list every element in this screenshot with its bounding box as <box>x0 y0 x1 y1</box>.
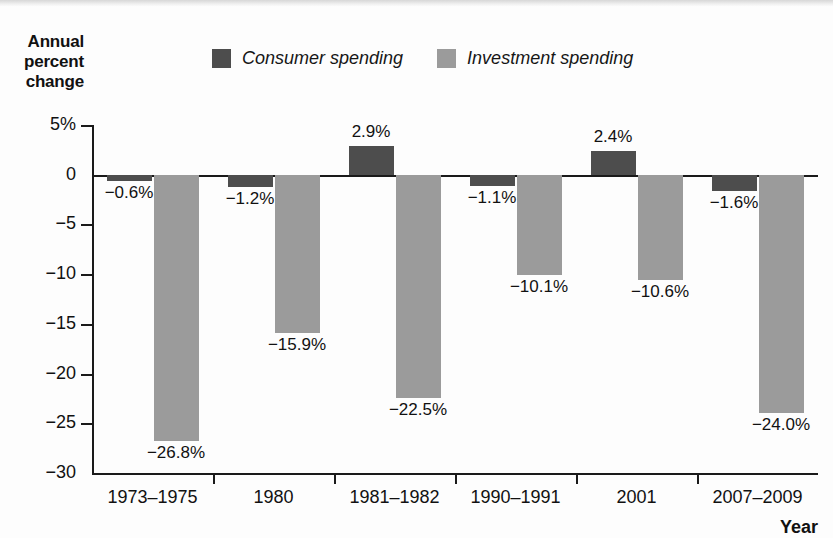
plot-area: 5%0−5−10−15−20−25−30 −0.6%−1.2%2.9%−1.1%… <box>92 125 818 475</box>
bar-consumer-4 <box>591 151 636 175</box>
x-category-label-4: 2001 <box>576 487 697 508</box>
bar-value-label-investment-2: −22.5% <box>379 400 457 420</box>
chart-figure: Annual percent change Consumer spending … <box>0 0 833 538</box>
y-tick-label: −20 <box>45 363 76 384</box>
bar-value-label-consumer-4: 2.4% <box>574 127 652 147</box>
bar-investment-2 <box>396 175 441 399</box>
bar-investment-0 <box>154 175 199 441</box>
legend-item-consumer-spending: Consumer spending <box>212 48 403 69</box>
bar-value-label-investment-3: −10.1% <box>500 277 578 297</box>
x-category-label-1: 1980 <box>213 487 334 508</box>
bar-value-label-investment-1: −15.9% <box>258 335 336 355</box>
y-axis-title: Annual percent change <box>0 32 84 92</box>
bar-value-label-investment-4: −10.6% <box>621 282 699 302</box>
x-tick-mark <box>334 473 336 484</box>
y-tick-label: −5 <box>55 213 76 234</box>
y-tick-label: 0 <box>66 164 76 185</box>
legend-label-consumer-spending: Consumer spending <box>242 48 403 69</box>
bar-value-label-consumer-2: 2.9% <box>332 122 410 142</box>
bar-value-label-investment-5: −24.0% <box>742 415 820 435</box>
bar-consumer-2 <box>349 146 394 175</box>
x-category-label-5: 2007–2009 <box>697 487 818 508</box>
bar-value-label-investment-0: −26.8% <box>137 443 215 463</box>
bar-consumer-1 <box>228 175 273 187</box>
bar-consumer-5 <box>712 175 757 191</box>
x-axis-title: Year <box>780 517 818 538</box>
y-tick-label: −25 <box>45 412 76 433</box>
bar-investment-3 <box>517 175 562 275</box>
y-tick-mark <box>81 374 94 376</box>
y-tick-mark <box>81 324 94 326</box>
bar-investment-1 <box>275 175 320 333</box>
x-category-label-0: 1973–1975 <box>92 487 213 508</box>
y-tick-mark <box>81 423 94 425</box>
legend-label-investment-spending: Investment spending <box>467 48 633 69</box>
legend-item-investment-spending: Investment spending <box>437 48 633 69</box>
x-tick-mark <box>697 473 699 484</box>
x-tick-mark <box>455 473 457 484</box>
bar-consumer-3 <box>470 175 515 186</box>
x-tick-mark <box>576 473 578 484</box>
y-tick-label: −15 <box>45 313 76 334</box>
zero-reference-line <box>92 175 818 177</box>
x-tick-mark <box>213 473 215 484</box>
chart-legend: Consumer spending Investment spending <box>212 48 633 69</box>
y-tick-mark <box>81 125 94 127</box>
x-category-label-3: 1990–1991 <box>455 487 576 508</box>
scan-edge-strip <box>0 0 833 7</box>
y-tick-mark <box>81 274 94 276</box>
y-tick-mark <box>81 224 94 226</box>
legend-swatch-consumer-spending <box>212 49 231 68</box>
bar-investment-4 <box>638 175 683 280</box>
x-category-label-2: 1981–1982 <box>334 487 455 508</box>
bar-consumer-0 <box>107 175 152 181</box>
bar-investment-5 <box>759 175 804 414</box>
y-tick-label: −10 <box>45 263 76 284</box>
legend-swatch-investment-spending <box>437 49 456 68</box>
y-tick-label: 5% <box>50 114 76 135</box>
y-tick-label: −30 <box>45 462 76 483</box>
